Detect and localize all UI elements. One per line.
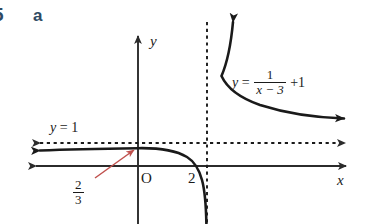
equation-plus-term: +1: [290, 75, 305, 90]
equation-denominator: x − 3: [254, 83, 286, 97]
x-tick-label-2: 2: [188, 170, 196, 187]
figure-page: 5 a y x O 2 y: [0, 0, 366, 224]
equation-numerator: 1: [254, 68, 286, 83]
equation-fraction: 1 x − 3: [254, 68, 286, 97]
curve-left-branch: [40, 148, 206, 224]
y-axis-label: y: [150, 33, 157, 50]
intercept-annotation-arrow: [95, 150, 134, 178]
equation-lhs: y: [232, 75, 238, 90]
x-axis-label: x: [337, 172, 344, 189]
horizontal-asymptote-label: y = 1: [50, 120, 78, 136]
asymptote-label-equals: =: [60, 120, 68, 135]
fraction-denominator: 3: [73, 193, 84, 207]
fraction-numerator: 2: [73, 178, 84, 193]
graph-canvas: [0, 0, 366, 224]
curve-equation-label: y = 1 x − 3 +1: [232, 68, 305, 97]
equation-equals: =: [242, 75, 250, 90]
fraction-two-thirds: 2 3: [73, 178, 84, 207]
asymptote-label-value: 1: [71, 120, 78, 135]
y-intercept-fraction-label: 2 3: [73, 178, 84, 207]
origin-label: O: [141, 170, 152, 187]
asymptote-label-y: y: [50, 120, 56, 135]
